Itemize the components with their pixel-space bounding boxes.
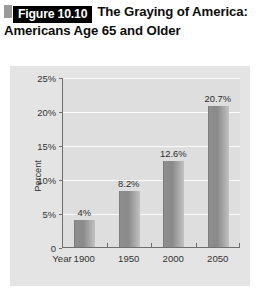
x-tick-mark [62,243,63,248]
y-tick-label: 0 [51,243,56,254]
figure-container: Figure 10.10The Graying of America: Amer… [0,0,260,296]
x-tick-label: 1950 [118,253,139,264]
gridline [62,78,240,79]
x-tick-label: 1900 [74,253,95,264]
x-tick-mark [107,243,108,248]
bar-value-label: 4% [77,207,91,218]
figure-title-block: Figure 10.10The Graying of America: Amer… [0,0,260,41]
figure-tab-marker [4,5,12,18]
y-axis-line [62,78,63,248]
x-tick-label: 2050 [207,253,228,264]
x-axis-title: Year [52,253,71,264]
y-tick-mark [59,180,62,181]
x-tick-mark [196,243,197,248]
y-tick-mark [59,146,62,147]
y-tick-label: 10% [37,175,56,186]
figure-number-badge: Figure 10.10 [13,6,92,23]
page-title: Figure 10.10The Graying of America: Amer… [0,4,254,39]
chart-panel: Percent Year 05%10%15%20%25% 19001950200… [10,66,250,286]
x-tick-mark [239,243,240,248]
y-tick-mark [59,78,62,79]
bar [119,191,140,247]
bar [74,220,95,247]
y-tick-mark [59,112,62,113]
x-tick-label: 2000 [163,253,184,264]
bar-value-label: 20.7% [204,93,231,104]
bar-value-label: 12.6% [160,148,187,159]
bar-value-label: 8.2% [118,178,139,189]
y-tick-label: 25% [37,73,56,84]
y-tick-label: 15% [37,141,56,152]
bar [163,161,184,247]
y-tick-label: 5% [42,209,56,220]
y-tick-mark [59,214,62,215]
plot-wrapper: 05%10%15%20%25% 1900195020002050 4%8.2%1… [62,78,240,248]
bar [208,106,229,247]
y-tick-label: 20% [37,107,56,118]
x-tick-mark [151,243,152,248]
